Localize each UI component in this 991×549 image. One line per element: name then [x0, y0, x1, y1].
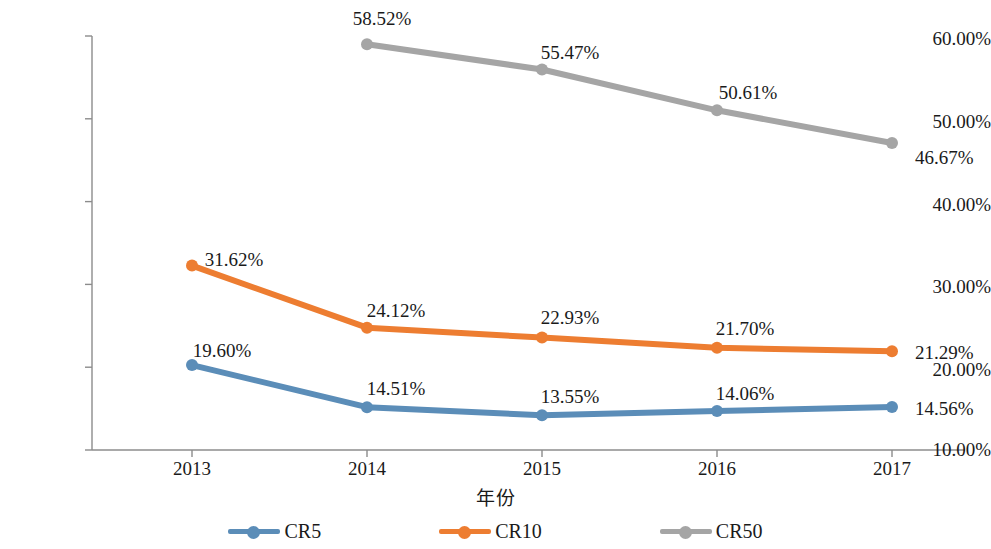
- data-label-cr10: 31.62%: [205, 250, 264, 269]
- series-cr5-point: [886, 401, 898, 413]
- y-axis-tick-label: 50.00%: [913, 111, 991, 130]
- x-axis-tick-label: 2017: [847, 459, 937, 478]
- series-cr10-point: [536, 332, 548, 344]
- series-cr5-point: [711, 405, 723, 417]
- y-axis-tick-label: 60.00%: [913, 29, 991, 48]
- x-axis-tick-label: 2013: [147, 459, 237, 478]
- series-cr50: [361, 38, 898, 149]
- legend-label-cr5: CR5: [284, 521, 321, 541]
- series-cr10-point: [711, 342, 723, 354]
- data-label-cr50: 58.52%: [353, 9, 412, 28]
- data-label-cr5: 14.51%: [367, 379, 426, 398]
- series-cr10-point: [186, 260, 198, 272]
- data-label-cr10: 24.12%: [367, 301, 426, 320]
- y-axis-tick-label: 20.00%: [913, 360, 991, 379]
- series-cr10-point: [886, 345, 898, 357]
- series-cr50-point: [361, 38, 373, 50]
- chart-canvas: [0, 0, 991, 470]
- chart-page: 60.00% 50.00% 40.00% 30.00% 20.00% 10.00…: [0, 0, 991, 549]
- data-label-cr10: 22.93%: [541, 308, 600, 327]
- data-label-cr50: 50.61%: [719, 83, 778, 102]
- series-cr50-point: [886, 137, 898, 149]
- legend-item-cr5[interactable]: CR5: [228, 521, 321, 541]
- data-label-cr10: 21.70%: [716, 319, 775, 338]
- plot-area: 60.00% 50.00% 40.00% 30.00% 20.00% 10.00…: [0, 0, 991, 470]
- x-axis-title: 年份: [0, 483, 991, 510]
- y-axis-tick-label: 40.00%: [913, 194, 991, 213]
- y-axis-ticks: [85, 36, 92, 450]
- series-cr10-point: [361, 322, 373, 334]
- legend-marker-cr50-icon: [660, 524, 712, 538]
- x-axis-tick-label: 2014: [322, 459, 412, 478]
- data-label-cr50: 46.67%: [915, 148, 974, 167]
- chart-legend: CR5 CR10 CR50: [0, 513, 991, 549]
- series-cr50-point: [711, 104, 723, 116]
- x-axis-tick-label: 2016: [672, 459, 762, 478]
- legend-item-cr10[interactable]: CR10: [439, 521, 542, 541]
- y-axis-tick-label: 30.00%: [913, 277, 991, 296]
- data-label-cr5: 19.60%: [193, 341, 252, 360]
- data-label-cr10: 21.29%: [915, 343, 974, 362]
- x-axis-ticks: [192, 450, 892, 457]
- legend-label-cr50: CR50: [716, 521, 763, 541]
- data-label-cr5: 14.06%: [716, 384, 775, 403]
- series-cr5-point: [361, 401, 373, 413]
- y-axis-tick-label: 10.00%: [913, 440, 991, 459]
- data-label-cr50: 55.47%: [541, 43, 600, 62]
- series-cr50-line: [367, 44, 892, 143]
- series-cr5-point: [536, 409, 548, 421]
- legend-marker-cr5-icon: [228, 524, 280, 538]
- data-label-cr5: 14.56%: [915, 399, 974, 418]
- legend-item-cr50[interactable]: CR50: [660, 521, 763, 541]
- x-axis-tick-label: 2015: [497, 459, 587, 478]
- legend-marker-cr10-icon: [439, 524, 491, 538]
- legend-label-cr10: CR10: [495, 521, 542, 541]
- data-label-cr5: 13.55%: [541, 387, 600, 406]
- series-cr50-point: [536, 64, 548, 76]
- series-cr5-point: [186, 359, 198, 371]
